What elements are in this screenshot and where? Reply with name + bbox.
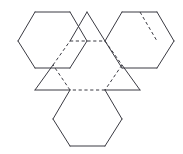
net-diagram-canvas [0,0,183,154]
net-diagram-svg [0,0,183,154]
